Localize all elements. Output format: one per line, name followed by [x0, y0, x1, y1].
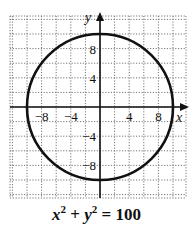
axes [10, 12, 189, 198]
x-tick-label: 4 [126, 109, 133, 124]
y-tick-label: 8 [90, 42, 97, 57]
circle-graph: −8−44884−4−8 x y [0, 0, 193, 202]
x-tick-label: −4 [64, 109, 78, 124]
x-tick-label: −8 [35, 109, 49, 124]
eq-var-x: x [52, 205, 61, 224]
y-tick-label: 4 [90, 71, 97, 86]
eq-plus: + [66, 205, 84, 224]
eq-rhs: = 100 [97, 205, 141, 224]
x-axis-label: x [175, 110, 183, 125]
x-tick-label: 8 [155, 109, 162, 124]
y-tick-label: −4 [82, 129, 96, 144]
eq-var-y: y [84, 205, 92, 224]
equation-caption: x2 + y2 = 100 [0, 203, 193, 225]
y-tick-label: −8 [82, 158, 96, 173]
y-axis-label: y [83, 10, 92, 25]
